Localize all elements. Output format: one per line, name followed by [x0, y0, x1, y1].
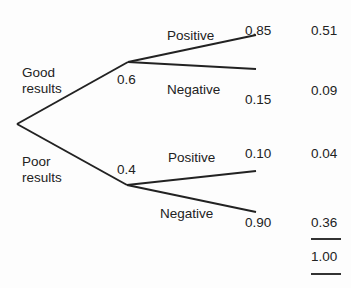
poor-negative-probability: 0.90 — [245, 215, 271, 231]
poor-results-probability: 0.4 — [117, 162, 136, 178]
poor-negative-joint: 0.36 — [311, 215, 337, 231]
good-results-label-line1: Good — [22, 65, 55, 81]
total-probability: 1.00 — [311, 249, 337, 265]
sum-rule-bottom — [311, 273, 341, 275]
good-negative-label: Negative — [167, 82, 220, 98]
poor-positive-label: Positive — [168, 150, 215, 166]
good-results-label-line2: results — [22, 81, 62, 97]
sum-rule-top — [311, 238, 341, 240]
probability-tree-diagram: Good results 0.6 Poor results 0.4 Positi… — [0, 0, 351, 288]
branch-poor-positive — [127, 171, 256, 185]
good-positive-joint: 0.51 — [311, 23, 337, 39]
good-results-probability: 0.6 — [117, 72, 136, 88]
poor-positive-probability: 0.10 — [245, 146, 271, 162]
poor-positive-joint: 0.04 — [311, 146, 337, 162]
poor-results-label-line2: results — [22, 170, 62, 186]
good-positive-probability: 0.85 — [245, 23, 271, 39]
good-negative-probability: 0.15 — [245, 92, 271, 108]
good-negative-joint: 0.09 — [311, 83, 337, 99]
poor-negative-label: Negative — [160, 206, 213, 222]
poor-results-label-line1: Poor — [22, 154, 51, 170]
good-positive-label: Positive — [167, 28, 214, 44]
branch-good-negative — [128, 62, 256, 69]
